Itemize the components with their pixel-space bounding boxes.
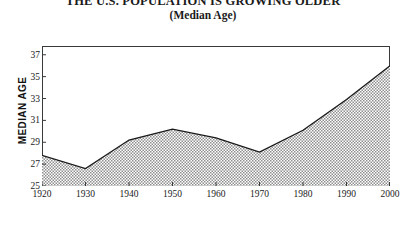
area-chart-svg [42, 46, 390, 186]
x-tick-label: 1920 [22, 189, 62, 199]
x-tick-label: 1930 [66, 189, 106, 199]
x-tick-label: 1960 [196, 189, 236, 199]
y-tick-label: 29 [12, 137, 40, 147]
y-tick-label: 35 [12, 72, 40, 82]
x-axis-tick-labels: 192019301940195019601970198019902000 [42, 189, 390, 205]
x-tick-label: 2000 [370, 189, 406, 199]
plot-area [42, 46, 390, 186]
chart-subtitle: (Median Age) [0, 9, 406, 21]
x-tick-label: 1990 [327, 189, 367, 199]
x-tick-label: 1980 [283, 189, 323, 199]
x-tick-label: 1950 [153, 189, 193, 199]
y-tick-label: 31 [12, 115, 40, 125]
y-tick-label: 27 [12, 159, 40, 169]
chart-figure: THE U.S. POPULATION IS GROWING OLDER (Me… [0, 0, 406, 236]
chart-title: THE U.S. POPULATION IS GROWING OLDER [0, 0, 406, 8]
title-block: THE U.S. POPULATION IS GROWING OLDER (Me… [0, 0, 406, 21]
y-tick-label: 33 [12, 94, 40, 104]
y-tick-label: 37 [12, 50, 40, 60]
x-tick-label: 1940 [109, 189, 149, 199]
area-fill [42, 66, 390, 186]
x-tick-label: 1970 [240, 189, 280, 199]
y-axis-tick-labels: 25272931333537 [8, 46, 40, 186]
